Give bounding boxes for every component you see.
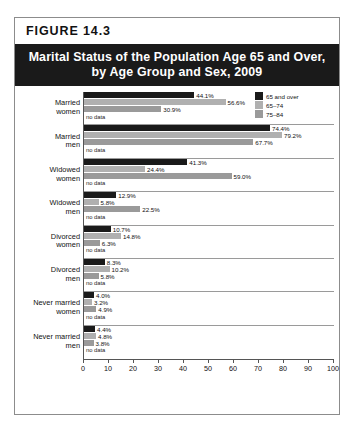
bar-row: 4.4% (84, 326, 334, 332)
bar (84, 92, 194, 98)
bar-row: 56.6% (84, 99, 334, 105)
axis-tick-label: 0 (81, 364, 85, 373)
axis-tick (258, 359, 259, 363)
bar-row: 4.9% (84, 306, 334, 312)
bar-row: 74.4% (84, 125, 334, 131)
bar (84, 173, 232, 179)
bar-group: Divorced men8.3%10.2%5.8%no data (84, 259, 334, 292)
no-data-row: no data (84, 113, 334, 120)
bar-value-label: 24.4% (145, 165, 165, 172)
axis-tick (333, 359, 334, 363)
no-data-label: no data (86, 180, 105, 186)
bar-value-label: 5.8% (99, 272, 115, 279)
bar-value-label: 3.8% (94, 339, 110, 346)
bar-group: Never married women4.0%3.2%4.9%no data (84, 292, 334, 325)
no-data-label: no data (86, 280, 105, 286)
bar (84, 340, 94, 346)
bar-value-label: 30.9% (161, 106, 181, 113)
bar (84, 306, 96, 312)
axis-tick-label: 30 (154, 364, 162, 373)
x-axis: 0102030405060708090100 (83, 359, 333, 383)
bar-value-label: 74.4% (270, 125, 290, 132)
bar-row: 14.8% (84, 233, 334, 239)
bar-value-label: 3.2% (92, 299, 108, 306)
bar (84, 233, 121, 239)
bar-row: 67.7% (84, 139, 334, 145)
bar-value-label: 4.0% (94, 292, 110, 299)
no-data-row: no data (84, 247, 334, 254)
bar-row: 79.2% (84, 132, 334, 138)
bar-group: Never married men4.4%4.8%3.8%no data (84, 326, 334, 359)
category-label: Divorced women (18, 233, 80, 250)
no-data-row: no data (84, 146, 334, 153)
no-data-label: no data (86, 214, 105, 220)
axis-tick-label: 20 (129, 364, 137, 373)
no-data-label: no data (86, 147, 105, 153)
axis-tick (158, 359, 159, 363)
bar-value-label: 67.7% (253, 139, 273, 146)
bar-row: 6.3% (84, 240, 334, 246)
no-data-row: no data (84, 313, 334, 320)
bar-value-label: 14.8% (121, 232, 141, 239)
bar (84, 292, 94, 298)
bar-group: Married women44.1%56.6%30.9%no data (84, 92, 334, 125)
axis-tick (308, 359, 309, 363)
bar-row: 4.8% (84, 333, 334, 339)
axis-tick (208, 359, 209, 363)
bar-row: 8.3% (84, 259, 334, 265)
figure-title-banner: Marital Status of the Population Age 65 … (15, 44, 339, 86)
bar (84, 333, 96, 339)
category-label: Divorced men (18, 266, 80, 283)
bar-row: 3.2% (84, 299, 334, 305)
bar-value-label: 12.9% (116, 192, 136, 199)
bar-row: 22.5% (84, 206, 334, 212)
bar-value-label: 4.8% (96, 332, 112, 339)
bar-value-label: 22.5% (140, 206, 160, 213)
axis-tick-label: 60 (229, 364, 237, 373)
bar-value-label: 4.9% (96, 306, 112, 313)
axis-tick-label: 90 (304, 364, 312, 373)
bar-row: 30.9% (84, 106, 334, 112)
no-data-label: no data (86, 347, 105, 353)
axis-tick (183, 359, 184, 363)
bar-group: Divorced women10.7%14.8%6.3%no data (84, 226, 334, 259)
bar-group: Widowed women41.3%24.4%59.0%no data (84, 159, 334, 192)
axis-tick (233, 359, 234, 363)
axis-tick-label: 70 (254, 364, 262, 373)
bar-value-label: 44.1% (194, 92, 214, 99)
bar (84, 299, 92, 305)
bar (84, 259, 105, 265)
no-data-row: no data (84, 180, 334, 187)
axis-tick (283, 359, 284, 363)
chart-area: 65 and over65–7475–84 Married women44.1%… (15, 86, 339, 389)
no-data-row: no data (84, 213, 334, 220)
bar-value-label: 41.3% (187, 158, 207, 165)
bar (84, 240, 100, 246)
bar (84, 206, 140, 212)
bar-row: 59.0% (84, 173, 334, 179)
bar-row: 3.8% (84, 340, 334, 346)
category-label: Married men (18, 133, 80, 150)
bar-row: 5.8% (84, 273, 334, 279)
bar-value-label: 6.3% (100, 239, 116, 246)
category-label: Never married women (18, 300, 80, 317)
axis-tick-label: 100 (327, 364, 339, 373)
axis-tick-label: 40 (179, 364, 187, 373)
bar-value-label: 10.2% (110, 265, 130, 272)
bar-value-label: 10.7% (111, 225, 131, 232)
bar-value-label: 59.0% (232, 172, 252, 179)
axis-tick (133, 359, 134, 363)
bar-value-label: 4.4% (95, 325, 111, 332)
bar (84, 266, 110, 272)
bar-group: Widowed men12.9%5.8%22.5%no data (84, 192, 334, 225)
bar-value-label: 5.8% (99, 199, 115, 206)
bar (84, 326, 95, 332)
bar (84, 273, 99, 279)
figure-header: FIGURE 14.3 (15, 18, 339, 44)
category-label: Never married men (18, 334, 80, 351)
no-data-label: no data (86, 314, 105, 320)
category-label: Widowed men (18, 200, 80, 217)
figure-number: FIGURE 14.3 (26, 24, 111, 38)
no-data-row: no data (84, 347, 334, 354)
no-data-label: no data (86, 114, 105, 120)
